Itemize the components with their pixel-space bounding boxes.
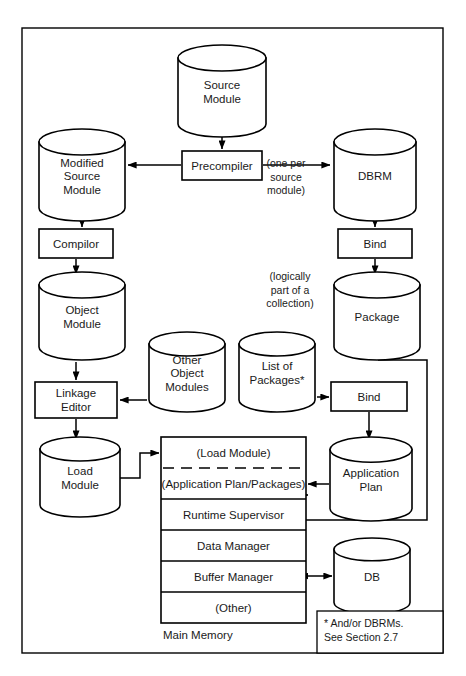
node-load-module: LoadModule (40, 437, 120, 517)
node-label-source-module: Module (203, 93, 241, 105)
annotation-logically-part-of-a-collection: part of a (271, 284, 310, 296)
node-label-application-plan: Application (343, 467, 399, 479)
footnote-block: * And/or DBRMs.See Section 2.7 (317, 611, 443, 653)
annotation-logically-part-of-a-collection: collection) (266, 297, 313, 309)
node-label-load-module: Load (67, 465, 93, 477)
memory-row-label-application-plan-packages-row: (Application Plan/Packages) (162, 478, 306, 490)
footnote-line-0: * And/or DBRMs. (324, 617, 403, 629)
program-preparation-diagram: SourceModulePrecompilerModifiedSourceMod… (0, 0, 466, 676)
node-label-other-object-modules: Other (173, 354, 202, 366)
cylinder-top (178, 45, 266, 71)
node-label-modified-source-module: Source (64, 170, 100, 182)
annotation-one-per-source-module: (one per (266, 157, 306, 169)
cylinder-top (334, 272, 420, 298)
node-label-precompiler: Precompiler (191, 160, 253, 172)
cylinder-top (330, 437, 412, 462)
node-label-object-module: Object (65, 304, 99, 316)
node-dbrm: DBRM (334, 129, 416, 221)
memory-row-label-load-module-row: (Load Module) (196, 447, 270, 459)
cylinder-top (39, 129, 125, 155)
memory-row-label-other-row: (Other) (215, 602, 252, 614)
node-object-module: ObjectModule (39, 272, 125, 360)
node-package: Package (334, 272, 420, 360)
node-compiler: Compilor (39, 229, 113, 258)
node-application-plan: ApplicationPlan (330, 437, 412, 521)
connector-load-module-to-main-memory (120, 453, 159, 478)
node-list-of-packages: List ofPackages* (239, 332, 315, 412)
node-modified-source-module: ModifiedSourceModule (39, 129, 125, 221)
node-label-application-plan: Plan (359, 481, 382, 493)
annotation-one-per-source-module: source (270, 171, 302, 183)
node-label-other-object-modules: Object (170, 367, 204, 379)
node-label-package: Package (355, 311, 400, 323)
node-label-list-of-packages: List of (262, 360, 293, 372)
node-label-dbrm: DBRM (358, 170, 392, 182)
node-bind-1: Bind (338, 229, 412, 258)
cylinder-top (40, 437, 120, 461)
node-label-modified-source-module: Module (63, 184, 101, 196)
main-memory-block: (Load Module)(Application Plan/Packages)… (161, 437, 306, 641)
node-label-other-object-modules: Modules (165, 381, 209, 393)
node-label-list-of-packages: Packages* (250, 374, 306, 386)
footnote-line-1: See Section 2.7 (324, 631, 398, 643)
cylinder-top (149, 332, 225, 356)
cylinder-top (334, 129, 416, 155)
node-label-db: DB (364, 571, 380, 583)
main-memory-label: Main Memory (163, 629, 233, 641)
node-label-load-module: Module (61, 479, 99, 491)
memory-row-label-buffer-manager-row: Buffer Manager (194, 571, 273, 583)
annotation-layer: (one persourcemodule)(logicallypart of a… (266, 157, 313, 309)
node-label-linkage-editor: Editor (61, 401, 91, 413)
node-label-bind-1: Bind (363, 238, 386, 250)
cylinder-top (239, 332, 315, 356)
memory-row-other-row: (Other) (215, 602, 252, 614)
node-source-module: SourceModule (178, 45, 266, 137)
cylinder-top (39, 272, 125, 298)
annotation-logically-part-of-a-collection: (logically (270, 270, 312, 282)
node-precompiler: Precompiler (182, 151, 262, 180)
cylinder-top (334, 538, 410, 561)
memory-row-label-runtime-supervisor-row: Runtime Supervisor (183, 509, 284, 521)
node-other-object-modules: OtherObjectModules (149, 332, 225, 412)
node-bind-2: Bind (331, 382, 407, 411)
node-label-modified-source-module: Modified (60, 157, 103, 169)
memory-row-label-data-manager-row: Data Manager (197, 540, 270, 552)
node-label-source-module: Source (204, 79, 240, 91)
node-label-bind-2: Bind (357, 391, 380, 403)
annotation-one-per-source-module: module) (267, 184, 305, 196)
diagram-root: SourceModulePrecompilerModifiedSourceMod… (0, 0, 466, 676)
node-label-linkage-editor: Linkage (56, 387, 96, 399)
node-linkage-editor: LinkageEditor (35, 382, 117, 418)
node-db: DB (334, 538, 410, 614)
node-label-object-module: Module (63, 318, 101, 330)
node-label-compiler: Compilor (53, 238, 99, 250)
